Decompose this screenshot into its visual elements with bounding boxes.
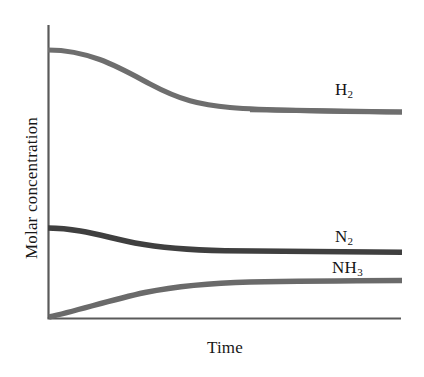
series-label-nh3-formula: NH (332, 258, 357, 277)
series-label-h2: H2 (335, 80, 353, 100)
series-label-h2-subscript: 2 (348, 88, 354, 100)
series-label-nh3: NH3 (332, 258, 363, 278)
series-label-n2-subscript: 2 (348, 235, 354, 247)
series-label-n2-formula: N (335, 227, 348, 246)
series-curve-nh3 (49, 281, 402, 318)
series-label-h2-formula: H (335, 80, 348, 99)
equilibrium-concentration-chart: Molar concentration Time H2 N2 NH3 (0, 0, 424, 377)
series-curve-h2-tail (250, 110, 402, 112)
y-axis-label: Molar concentration (22, 78, 42, 298)
series-label-nh3-subscript: 3 (357, 266, 363, 278)
chart-plot-area (0, 0, 424, 377)
x-axis-label: Time (48, 338, 402, 358)
series-label-n2: N2 (335, 227, 353, 247)
